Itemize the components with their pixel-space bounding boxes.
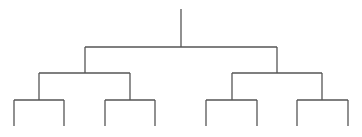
tree-diagram xyxy=(0,0,362,137)
